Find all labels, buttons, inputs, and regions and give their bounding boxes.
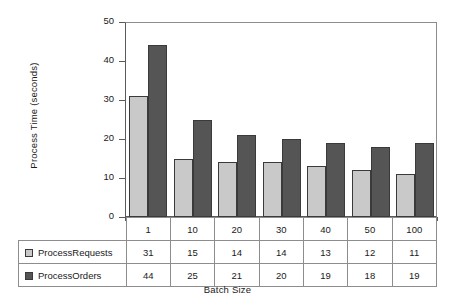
- bar-group: [304, 22, 349, 217]
- table-cell-value: 12: [348, 241, 392, 264]
- table-cell-value: 11: [392, 241, 436, 264]
- table-cell-value: 13: [303, 241, 347, 264]
- table-category-header: 40: [303, 218, 347, 241]
- bar: [148, 45, 167, 217]
- bar-group: [349, 22, 394, 217]
- table-row: ProcessRequests31151414131211: [19, 241, 437, 264]
- table-category-header: 100: [392, 218, 436, 241]
- legend-swatch-icon: [25, 272, 33, 280]
- bar: [263, 162, 282, 217]
- legend-entry-processrequests: ProcessRequests: [19, 241, 127, 264]
- bar: [237, 135, 256, 217]
- bar: [307, 166, 326, 217]
- legend-label: ProcessRequests: [38, 247, 112, 258]
- bar-group: [260, 22, 305, 217]
- table-row-categories: 11020304050100: [19, 218, 437, 241]
- legend-swatch-icon: [25, 249, 33, 257]
- bar: [371, 147, 390, 217]
- table-category-header: 10: [170, 218, 214, 241]
- y-tick-mark: [119, 178, 125, 179]
- table-category-header: 30: [259, 218, 303, 241]
- table-category-header: 1: [126, 218, 170, 241]
- bar: [129, 96, 148, 217]
- bar-group: [393, 22, 438, 217]
- x-tick-mark: [437, 217, 438, 221]
- y-tick-label: 20: [103, 132, 114, 143]
- legend-label: ProcessOrders: [38, 270, 101, 281]
- y-tick-mark: [119, 100, 125, 101]
- bar: [415, 143, 434, 217]
- table-category-header: 20: [215, 218, 259, 241]
- table-corner-blank: [19, 218, 127, 241]
- table-cell-value: 14: [259, 241, 303, 264]
- bar: [193, 120, 212, 218]
- table-cell-value: 14: [215, 241, 259, 264]
- bar-chart-figure: Process Time (seconds) 01020304050 11020…: [0, 0, 457, 303]
- bar: [174, 159, 193, 218]
- bar-group: [215, 22, 260, 217]
- table-cell-value: 31: [126, 241, 170, 264]
- x-axis-title: Batch Size: [18, 284, 437, 295]
- y-axis-title: Process Time (seconds): [28, 21, 39, 211]
- y-tick-mark: [119, 61, 125, 62]
- y-tick-label: 40: [103, 54, 114, 65]
- y-tick-mark: [119, 22, 125, 23]
- table-cell-value: 15: [170, 241, 214, 264]
- bar: [282, 139, 301, 217]
- bars-layer: [126, 22, 437, 217]
- bar-group: [126, 22, 171, 217]
- bar-group: [171, 22, 216, 217]
- y-tick-mark: [119, 139, 125, 140]
- bar: [352, 170, 371, 217]
- y-tick-label: 50: [103, 15, 114, 26]
- chart-data-table: 11020304050100ProcessRequests31151414131…: [18, 217, 437, 287]
- table-category-header: 50: [348, 218, 392, 241]
- y-tick-label: 10: [103, 171, 114, 182]
- y-tick-label: 30: [103, 93, 114, 104]
- bar: [218, 162, 237, 217]
- bar: [326, 143, 345, 217]
- bar: [396, 174, 415, 217]
